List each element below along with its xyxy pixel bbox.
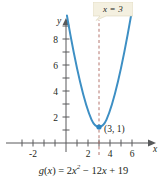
- x-axis-label: x: [152, 144, 158, 154]
- parabola-curve: [67, 15, 131, 127]
- vertex-point-label: (3, 1): [104, 124, 125, 135]
- x-axis: [6, 140, 156, 147]
- x-tick-label-6: 6: [130, 149, 135, 159]
- y-tick-label-4: 4: [53, 87, 58, 97]
- x-tick-label--2: -2: [29, 149, 37, 159]
- vertex-point-marker: [96, 124, 101, 129]
- y-tick-label-6: 6: [53, 61, 58, 71]
- quadratic-graph-figure: -2 2 4 6 2 4 6 8 x y (3, 1) x = 3: [0, 0, 167, 184]
- coordinate-plane: -2 2 4 6 2 4 6 8 x y (3, 1): [0, 0, 167, 160]
- x-tick-label-2: 2: [86, 149, 91, 159]
- plot-area: -2 2 4 6 2 4 6 8 x y (3, 1): [0, 0, 167, 160]
- equation-caption: g(x) = 2x2 − 12x + 19: [0, 163, 167, 176]
- y-tick-label-2: 2: [53, 113, 58, 123]
- y-axis: [63, 18, 70, 152]
- y-tick-label-8: 8: [53, 35, 58, 45]
- y-axis-label: y: [56, 16, 62, 26]
- x-tick-label-4: 4: [108, 149, 113, 159]
